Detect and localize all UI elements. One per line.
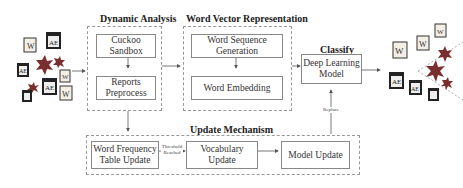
malware-icon [438, 46, 452, 62]
svg-text:W: W [395, 46, 404, 56]
word-doc-icon: W [24, 38, 36, 52]
word-doc-icon: W [417, 36, 429, 50]
svg-text:AE: AE [19, 68, 27, 74]
svg-text:W: W [419, 40, 427, 49]
model-update-box: Model Update [281, 141, 350, 169]
svg-text:AE: AE [392, 78, 401, 86]
word-doc-icon: W [435, 24, 446, 37]
malware-icon [441, 77, 453, 90]
dynamic-analysis-title: Dynamic Analysis [100, 13, 176, 24]
svg-text:W: W [27, 42, 35, 51]
malware-icon [426, 60, 445, 82]
deep-learning-model-box: Deep Learning Model [301, 54, 362, 84]
pdf-doc-icon: AE [409, 80, 422, 95]
output-classified-cluster: W W W AE AE [383, 20, 463, 115]
word-doc-icon: W [60, 86, 72, 100]
pdf-doc-icon [428, 88, 439, 101]
cuckoo-sandbox-box: Cuckoo Sandbox [96, 34, 156, 58]
pdf-doc-icon: AE [389, 72, 404, 89]
input-samples-cluster: W AE AE W AE W [12, 30, 74, 110]
svg-text:AE: AE [411, 86, 419, 92]
replace-label: Replace [318, 107, 344, 113]
malware-icon [36, 55, 53, 75]
pdf-doc-icon: AE [17, 63, 29, 77]
pdf-doc-icon: AE [42, 78, 57, 95]
svg-text:W: W [437, 28, 444, 36]
word-doc-icon: W [60, 70, 70, 82]
word-vector-title: Word Vector Representation [186, 13, 308, 24]
svg-text:AE: AE [45, 84, 54, 92]
pdf-doc-icon: AE [46, 32, 61, 49]
word-doc-icon: W [393, 42, 407, 58]
threshold-reached-label: Threshold Reached [161, 144, 183, 155]
reports-preprocess-box: Reports Preprocess [96, 76, 156, 100]
update-mechanism-title: Update Mechanism [190, 124, 273, 135]
svg-text:W: W [62, 73, 69, 81]
word-embedding-box: Word Embedding [191, 76, 283, 100]
svg-text:W: W [62, 90, 70, 99]
pdf-doc-icon [22, 90, 32, 102]
malware-icon [53, 56, 65, 68]
svg-text:AE: AE [49, 39, 58, 47]
word-frequency-table-update-box: Word Frequency Table Update [91, 141, 159, 169]
vocabulary-update-box: Vocabulary Update [186, 141, 258, 169]
word-sequence-generation-box: Word Sequence Generation [191, 34, 283, 58]
